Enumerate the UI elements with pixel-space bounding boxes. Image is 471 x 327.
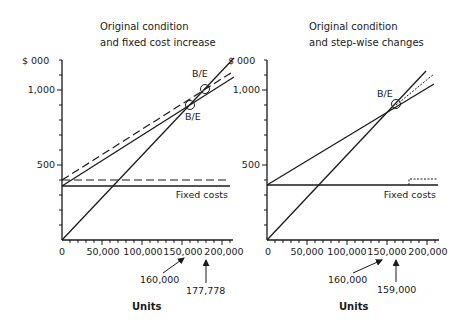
right-x-label-100000: 100,000: [327, 246, 366, 257]
left-x-label-150000: 150,000: [163, 246, 202, 257]
right-title-line2: and step-wise changes: [309, 37, 424, 48]
right-fixed-costs-label: Fixed costs: [384, 189, 436, 200]
left-x-label-100000: 100,000: [123, 246, 162, 257]
right-x-label-200000: 200,000: [408, 246, 447, 257]
right-arrow-label-160000: 160,000: [328, 274, 367, 285]
left-x-axis-title: Units: [132, 301, 161, 312]
left-be-upper-label: B/E: [192, 68, 208, 79]
chart-right: Original condition and step-wise changes…: [228, 21, 448, 312]
left-y-label-dollars: $ 000: [22, 55, 49, 66]
left-be-lower-label: B/E: [185, 111, 201, 122]
right-total-cost-line: [267, 84, 434, 185]
left-y-label-1000: 1,000: [28, 84, 55, 95]
right-y-ticks: [262, 60, 267, 225]
left-x-label-50000: 50,000: [86, 246, 119, 257]
left-total-cost-line: [62, 77, 234, 186]
right-arrow-label-159000: 159,000: [377, 284, 416, 295]
left-x-label-0: 0: [59, 246, 65, 257]
break-even-charts: Original condition and fixed cost increa…: [0, 0, 471, 327]
right-fixed-cost-step-line: [409, 179, 438, 185]
left-arrow-label-160000: 160,000: [140, 274, 179, 285]
left-arrow-160000: [163, 258, 184, 273]
right-x-label-150000: 150,000: [367, 246, 406, 257]
left-y-label-500: 500: [37, 159, 55, 170]
chart-left: Original condition and fixed cost increa…: [22, 21, 244, 312]
right-y-label-500: 500: [242, 159, 260, 170]
left-title-line2: and fixed cost increase: [100, 37, 216, 48]
right-total-cost-step-line: [396, 74, 434, 105]
left-total-cost-increase-line: [62, 71, 234, 180]
left-fixed-costs-label: Fixed costs: [176, 189, 228, 200]
right-title-line1: Original condition: [309, 21, 398, 32]
right-x-ticks: [275, 240, 435, 245]
left-x-label-200000: 200,000: [204, 246, 243, 257]
right-x-label-50000: 50,000: [290, 246, 323, 257]
right-x-label-0: 0: [265, 246, 271, 257]
right-revenue-line: [267, 71, 426, 240]
left-x-ticks: [70, 240, 230, 245]
right-be-label: B/E: [377, 88, 393, 99]
right-arrow-160000: [353, 260, 382, 273]
right-y-label-1000: 1,000: [233, 84, 260, 95]
right-x-axis-title: Units: [339, 301, 368, 312]
left-title-line1: Original condition: [100, 21, 189, 32]
left-arrow-label-177778: 177,778: [186, 285, 225, 296]
left-y-ticks: [57, 60, 62, 225]
right-y-label-dollars: $ 000: [228, 55, 255, 66]
